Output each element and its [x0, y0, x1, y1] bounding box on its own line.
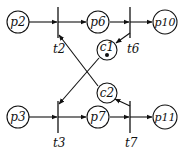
token-icon: [105, 53, 109, 57]
transition-t2-label: t2: [53, 42, 65, 56]
place-p3-label: p3: [10, 110, 26, 124]
place-p11: p11: [153, 105, 177, 129]
place-p7: p7: [87, 106, 109, 128]
place-p11-label: p11: [154, 111, 175, 124]
place-p6: p6: [87, 11, 109, 33]
place-p2-label: p2: [10, 15, 25, 29]
transition-t6-label: t6: [127, 42, 140, 56]
transition-t7-label: t7: [125, 136, 138, 150]
arc-c1-t3: [59, 58, 99, 104]
place-p10-label: p10: [154, 16, 175, 29]
place-p2: p2: [7, 11, 29, 33]
place-p6-label: p6: [90, 15, 106, 29]
place-p7-label: p7: [90, 110, 106, 124]
place-c2-label: c2: [100, 86, 114, 100]
transition-t3-label: t3: [53, 136, 66, 150]
place-p3: p3: [7, 106, 29, 128]
place-c1-label: c1: [100, 40, 114, 54]
petri-net-diagram: t2 t6 t3 t7 p2 p6 p10 c1 c2 p3 p7 p11: [0, 0, 187, 154]
place-p10: p10: [153, 10, 177, 34]
arc-t7-c2: [115, 99, 130, 106]
place-c1: c1: [97, 40, 117, 60]
place-c2: c2: [97, 83, 117, 103]
